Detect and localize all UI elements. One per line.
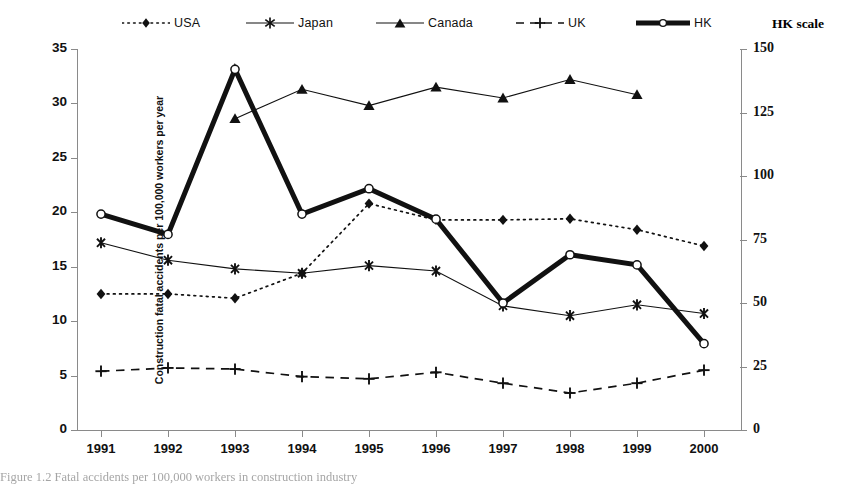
x-axis-line [77, 430, 742, 431]
legend-swatch-usa [122, 16, 170, 30]
data-point-circle [97, 210, 105, 218]
data-point-plus [698, 365, 709, 376]
data-point-plus [497, 378, 508, 389]
x-tick [503, 430, 504, 437]
legend-item-usa: USA [122, 16, 200, 30]
data-point-circle [700, 340, 708, 348]
series-line [101, 69, 704, 343]
x-tick-label: 1996 [406, 441, 466, 456]
x-tick [570, 430, 571, 437]
legend-item-canada: Canada [376, 16, 473, 30]
data-point-plus [296, 371, 307, 382]
data-point-diamond [566, 214, 575, 224]
data-point-plus [95, 366, 106, 377]
chart-plot-area: Construction fatal accidents per 100,000… [77, 49, 742, 430]
data-point-triangle [229, 113, 240, 123]
data-point-asterisk [97, 237, 105, 248]
x-tick-label: 1995 [339, 441, 399, 456]
chart-legend: USA Japan [0, 14, 854, 44]
y-tick-label-right: 100 [753, 167, 793, 183]
y-tick-label-left: 30 [27, 94, 67, 109]
data-point-circle [365, 185, 373, 193]
data-point-circle [499, 299, 507, 307]
x-tick [302, 430, 303, 437]
y-tick-label-right: 25 [753, 358, 793, 374]
data-point-plus [564, 387, 575, 398]
legend-label-canada: Canada [428, 16, 473, 30]
x-tick [637, 430, 638, 437]
y-tick-left [71, 430, 78, 431]
data-point-circle [432, 215, 440, 223]
legend-swatch-uk [516, 16, 564, 30]
series-uk [95, 362, 709, 398]
data-point-diamond [700, 241, 709, 251]
series-hk [97, 65, 708, 348]
x-tick-label: 1999 [607, 441, 667, 456]
y-tick-label-left: 10 [27, 312, 67, 327]
data-point-circle [633, 261, 641, 269]
series-canada [229, 74, 642, 123]
data-point-plus [631, 378, 642, 389]
legend-item-japan: Japan [246, 16, 333, 30]
y-tick-label-right: 0 [753, 421, 793, 437]
y-tick-label-right: 150 [753, 40, 793, 56]
legend-label-usa: USA [174, 16, 200, 30]
x-tick [704, 430, 705, 437]
data-point-circle [298, 210, 306, 218]
data-point-diamond [164, 289, 173, 299]
data-point-plus [363, 373, 374, 384]
legend-item-uk: UK [516, 16, 586, 30]
legend-label-uk: UK [568, 16, 586, 30]
y-tick-label-left: 15 [27, 258, 67, 273]
hk-scale-title: HK scale [772, 16, 824, 32]
legend-item-hk: HK [636, 16, 712, 30]
legend-label-hk: HK [694, 16, 712, 30]
x-tick-label: 1993 [205, 441, 265, 456]
x-tick [168, 430, 169, 437]
data-point-circle [164, 230, 172, 238]
figure-caption: Figure 1.2 Fatal accidents per 100,000 w… [0, 470, 854, 491]
y-tick-label-right: 125 [753, 104, 793, 120]
data-point-diamond [97, 289, 106, 299]
data-point-plus [430, 367, 441, 378]
y-tick-label-left: 5 [27, 367, 67, 382]
x-tick [101, 430, 102, 437]
data-point-plus [229, 363, 240, 374]
legend-swatch-canada [376, 16, 424, 30]
x-tick-label: 1992 [138, 441, 198, 456]
y-tick-label-left: 35 [27, 40, 67, 55]
series-line [101, 204, 704, 299]
data-point-plus [162, 362, 173, 373]
x-tick-label: 2000 [674, 441, 734, 456]
data-point-triangle [430, 82, 441, 92]
legend-label-japan: Japan [298, 16, 333, 30]
legend-swatch-japan [246, 16, 294, 30]
data-point-circle [566, 251, 574, 259]
x-tick-label: 1994 [272, 441, 332, 456]
data-point-diamond [231, 293, 240, 303]
y-tick-right [740, 430, 747, 431]
x-tick-label: 1997 [473, 441, 533, 456]
y-tick-label-left: 20 [27, 203, 67, 218]
x-tick-label: 1991 [71, 441, 131, 456]
y-tick-label-right: 75 [753, 231, 793, 247]
data-point-diamond [499, 215, 508, 225]
y-tick-label-left: 25 [27, 149, 67, 164]
data-point-triangle [564, 74, 575, 84]
x-tick [369, 430, 370, 437]
x-tick-label: 1998 [540, 441, 600, 456]
y-tick-label-left: 0 [27, 421, 67, 436]
series-line [101, 243, 704, 316]
data-point-circle [231, 65, 239, 73]
data-point-triangle [296, 84, 307, 94]
x-tick [235, 430, 236, 437]
chart-series-layer [77, 49, 742, 430]
series-japan [97, 237, 708, 321]
series-line [101, 368, 704, 393]
x-tick [436, 430, 437, 437]
y-tick-label-right: 50 [753, 294, 793, 310]
data-point-diamond [633, 225, 642, 235]
series-usa [97, 198, 709, 303]
legend-swatch-hk [636, 16, 690, 30]
